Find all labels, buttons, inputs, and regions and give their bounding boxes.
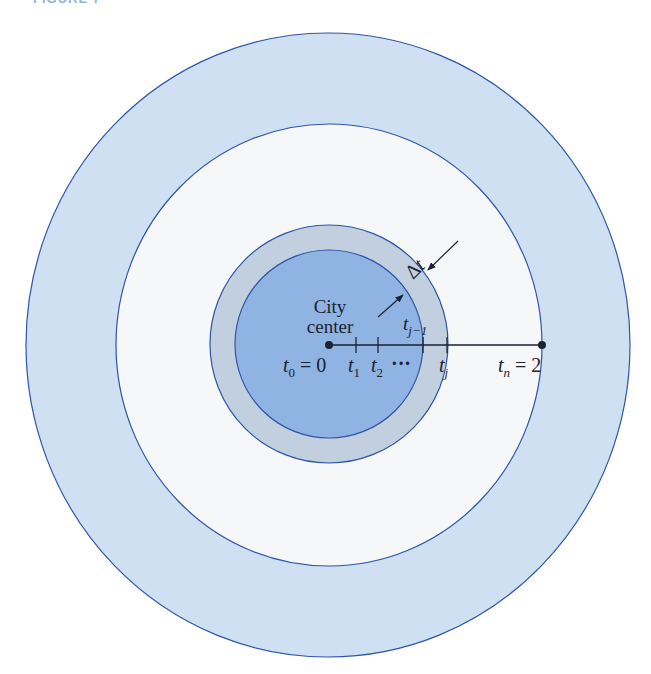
end-dot (538, 341, 546, 349)
ellipsis-dots: ··· (391, 352, 411, 374)
city-label: City (314, 296, 347, 317)
city-rings-diagram: Δt City center tj−1 t0 = 0 t1 t2 ··· tj … (0, 0, 651, 674)
center-label: center (307, 316, 354, 337)
center-dot (325, 341, 333, 349)
